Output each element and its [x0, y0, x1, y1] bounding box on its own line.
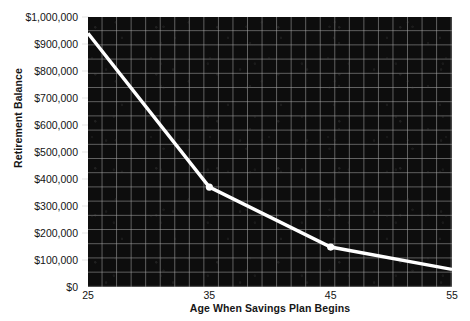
y-axis-tick-label: $900,000 — [34, 38, 78, 50]
x-axis-tick-label: 55 — [446, 289, 458, 301]
y-axis-title: Retirement Balance — [12, 38, 24, 198]
x-axis-tick-label: 25 — [82, 289, 94, 301]
y-axis-tick-label: $100,000 — [34, 254, 78, 266]
y-axis-tick-label: $400,000 — [34, 173, 78, 185]
y-axis-tick-label: $1,000,000 — [25, 11, 78, 23]
y-axis-tick-label: $300,000 — [34, 200, 78, 212]
x-axis-title: Age When Savings Plan Begins — [88, 302, 452, 314]
data-series-line — [88, 17, 452, 287]
y-axis-tick-label: $0 — [66, 281, 78, 293]
y-axis-tick-label: $200,000 — [34, 227, 78, 239]
x-axis-tick-label: 35 — [203, 289, 215, 301]
y-axis-tick-label: $600,000 — [34, 119, 78, 131]
plot-area — [88, 17, 452, 287]
data-point-marker — [206, 184, 213, 191]
retirement-balance-line-chart: Retirement Balance $0$100,000$200,000$30… — [0, 0, 470, 321]
y-axis-tick-label: $700,000 — [34, 92, 78, 104]
x-axis-tick-label: 45 — [325, 289, 337, 301]
y-axis-tick-label: $800,000 — [34, 65, 78, 77]
data-point-marker — [327, 243, 334, 250]
y-axis-tick-label: $500,000 — [34, 146, 78, 158]
